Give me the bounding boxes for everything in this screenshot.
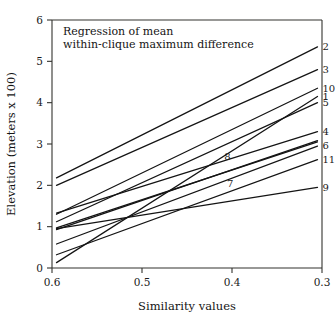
series-line-3 (57, 70, 318, 186)
series-lines (57, 47, 318, 263)
y-tick-label: 0 (36, 262, 43, 274)
series-label-11: 11 (323, 154, 335, 165)
series-label-7: 7 (227, 178, 233, 189)
series-label-6: 6 (323, 140, 329, 151)
series-line-4 (57, 132, 318, 213)
series-label-2: 2 (323, 41, 329, 52)
y-axis-label: Elevation (meters x 100) (4, 72, 18, 216)
x-tick-label: 0.4 (224, 276, 241, 288)
x-tick-label: 0.5 (134, 276, 151, 288)
chart-title-line-2: within-clique maximum difference (63, 38, 254, 51)
series-label-9: 9 (323, 182, 329, 193)
x-tick-label: 0.3 (314, 276, 331, 288)
y-tick-label: 4 (36, 96, 43, 108)
chart-container: 2310154611987 01234560.60.50.40.3 Regres… (0, 0, 335, 323)
series-label-8: 8 (224, 151, 230, 162)
axis-ticks (47, 20, 322, 273)
x-tick-label: 0.6 (44, 276, 61, 288)
y-tick-label: 1 (36, 220, 43, 232)
y-tick-label: 6 (36, 14, 43, 26)
series-line-11 (57, 160, 318, 255)
x-axis-label: Similarity values (138, 299, 236, 313)
y-tick-label: 3 (36, 138, 43, 150)
y-tick-label: 5 (36, 55, 43, 67)
series-line-7 (57, 142, 318, 228)
series-line-2 (57, 47, 318, 178)
series-label-4: 4 (323, 126, 329, 137)
series-labels: 2310154611987 (224, 41, 335, 193)
regression-line-chart: 2310154611987 01234560.60.50.40.3 Regres… (0, 0, 335, 323)
series-label-3: 3 (323, 64, 329, 75)
y-tick-label: 2 (36, 179, 43, 191)
chart-title-line-1: Regression of mean (63, 25, 173, 38)
series-line-1 (57, 96, 318, 262)
series-label-5: 5 (323, 97, 329, 108)
series-line-9 (57, 187, 318, 228)
series-line-5 (57, 103, 318, 222)
